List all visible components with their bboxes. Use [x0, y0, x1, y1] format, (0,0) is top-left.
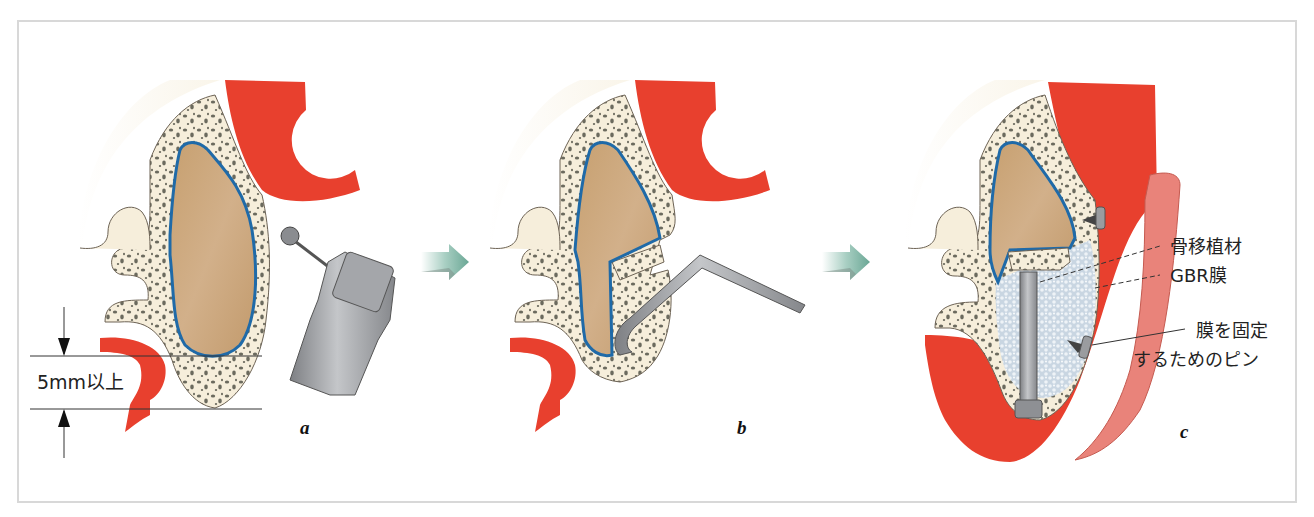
arrow-down-icon [58, 338, 70, 356]
handpiece-bur [281, 227, 395, 395]
arrow-up-icon [58, 409, 70, 427]
panel-label-c: c [1180, 421, 1189, 442]
sinus-lift-diagram: 5mm以上 a b [0, 0, 1314, 517]
panel-b: b [488, 80, 805, 438]
gingiva-lower [510, 337, 576, 432]
panel-label-b: b [737, 417, 747, 438]
label-pin-line1: 膜を固定 [1196, 320, 1268, 341]
step-arrow-2 [822, 244, 870, 280]
label-bone-graft: 骨移植材 [1170, 236, 1242, 257]
label-gbr-membrane: GBR膜 [1170, 265, 1227, 286]
right-arrow-icon [421, 244, 469, 280]
panel-label-a: a [300, 417, 310, 438]
step-arrow-1 [421, 244, 469, 280]
measurement-label: 5mm以上 [37, 371, 124, 393]
panel-c: 骨移植材 GBR膜 膜を固定 するためのピン c [905, 80, 1268, 462]
right-arrow-icon [822, 244, 870, 280]
label-pin-line2: するためのピン [1133, 349, 1259, 370]
panel-a: 5mm以上 a [30, 80, 395, 458]
